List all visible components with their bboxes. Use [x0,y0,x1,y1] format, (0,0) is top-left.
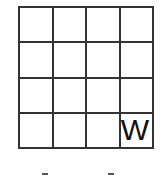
grid-cell [120,78,154,113]
grid-cell [53,113,87,148]
grid-cell [86,113,120,148]
grid-cell [53,7,87,42]
cell-label: W [121,115,149,145]
grid-cell [53,78,87,113]
grid-cell [19,7,53,42]
grid-cell [86,7,120,42]
grid-cell [120,42,154,77]
grid-cell [120,7,154,42]
cutoff-text-fragment [42,173,48,175]
grid-cell [19,78,53,113]
grid-cell [19,42,53,77]
grid-cell [86,78,120,113]
grid-cell [19,113,53,148]
grid-cell [86,42,120,77]
grid-board: W [18,6,154,149]
cutoff-text-fragment [108,173,114,175]
grid-cell: W [120,113,154,148]
grid-cell [53,42,87,77]
